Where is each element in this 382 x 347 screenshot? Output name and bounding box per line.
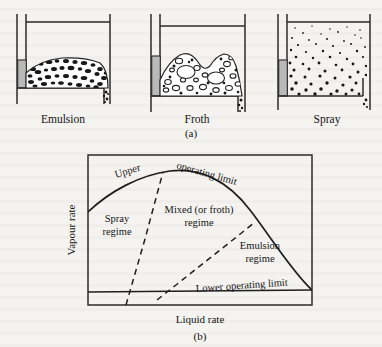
caption-part-a: (a): [185, 127, 198, 140]
froth-downcomer-liquid: [152, 56, 161, 96]
panel-label-emulsion: Emulsion: [41, 113, 85, 125]
spray-regime-annotation: Spray regime: [102, 213, 131, 237]
spray-mixed-boundary: [126, 172, 163, 305]
panel-emulsion: Emulsion: [17, 14, 110, 125]
figure-root: Emulsion: [0, 0, 382, 347]
panel-label-froth: Froth: [185, 113, 210, 125]
panel-froth: Froth: [151, 14, 245, 125]
panel-spray: Spray: [278, 14, 370, 126]
emulsion-regime-line1: Emulsion: [240, 240, 281, 251]
spray-regime-line1: Spray: [105, 213, 130, 224]
spray-droplet-field: [289, 25, 368, 95]
mixed-regime-line2: regime: [184, 217, 213, 228]
upper-limit-label-word2: operating limit: [175, 159, 238, 187]
emulsion-downcomer-liquid: [18, 60, 27, 88]
mixed-regime-annotation: Mixed (or froth) regime: [165, 204, 234, 228]
spray-regime-line2: regime: [102, 226, 131, 237]
tray-regimes-figure: Emulsion: [0, 0, 382, 347]
spray-overflow-droplets: [363, 99, 368, 109]
panel-label-spray: Spray: [314, 113, 341, 126]
caption-part-b: (b): [194, 330, 207, 343]
spray-downcomer-liquid: [279, 60, 288, 96]
emulsion-regime-line2: regime: [245, 253, 274, 264]
mixed-regime-line1: Mixed (or froth): [165, 204, 234, 216]
x-axis-label: Liquid rate: [176, 313, 225, 325]
y-axis-label: Vapour rate: [65, 204, 77, 255]
emulsion-regime-annotation: Emulsion regime: [240, 240, 281, 264]
regime-chart: Upper operating limit Lower operating li…: [65, 155, 312, 343]
upper-limit-label-word1: Upper: [113, 162, 142, 180]
